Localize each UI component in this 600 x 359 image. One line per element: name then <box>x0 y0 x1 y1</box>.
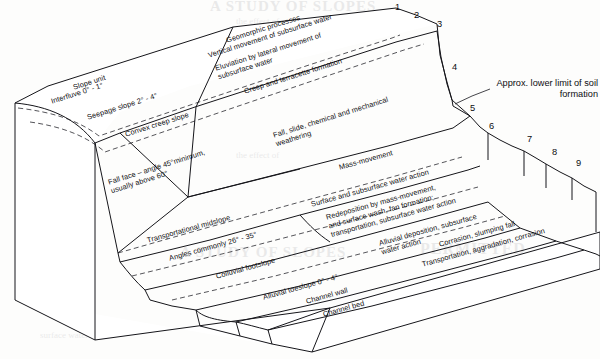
unit-number-3: 3 <box>437 19 442 29</box>
unit-number-4: 4 <box>452 62 457 72</box>
soil-limit-line-1: Approx. lower limit of soil <box>483 78 598 89</box>
soil-limit-annotation: Approx. lower limit of soil formation <box>483 78 598 101</box>
unit-number-7: 7 <box>527 134 532 144</box>
unit-number-2: 2 <box>414 10 419 20</box>
block-diagram-figure: A STUDY OF SLOPES the effect of surface … <box>0 0 600 359</box>
unit-number-1: 1 <box>395 2 400 12</box>
unit-number-9: 9 <box>576 158 581 168</box>
unit-number-5: 5 <box>470 103 475 113</box>
unit-number-8: 8 <box>552 147 557 157</box>
soil-limit-line-2: formation <box>483 89 598 100</box>
unit-number-6: 6 <box>489 121 494 131</box>
